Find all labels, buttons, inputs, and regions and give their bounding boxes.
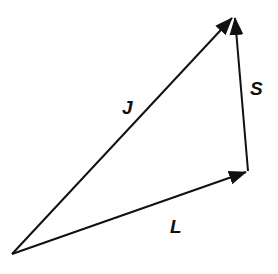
label-l: L (170, 216, 182, 237)
label-j: J (122, 97, 133, 118)
vector-diagram: J L S (0, 0, 278, 274)
label-s: S (250, 78, 263, 99)
vector-j-arrow (12, 18, 232, 254)
vector-s-arrow (235, 18, 248, 171)
vector-l-arrow (12, 172, 246, 254)
